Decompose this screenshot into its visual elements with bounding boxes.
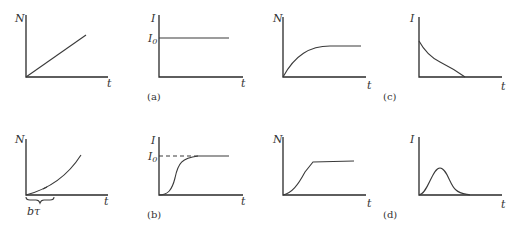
x-label: t xyxy=(367,79,372,92)
y-label: N xyxy=(14,133,25,146)
y-label: N xyxy=(14,12,25,25)
y-label: I xyxy=(150,12,156,25)
panel-c-I: I t (c) xyxy=(383,12,506,102)
x-label: t xyxy=(501,198,506,211)
panel-d-N: N t xyxy=(272,133,372,210)
y-label: I xyxy=(409,12,415,25)
caption-c: (c) xyxy=(383,91,397,102)
y-label: I xyxy=(150,134,156,147)
x-label: t xyxy=(104,195,109,208)
panel-a-I: I I0 t (a) xyxy=(147,12,246,102)
kinetics-figure: N t I I0 t (a) N t I t (c) bτ t N xyxy=(0,0,513,237)
svg-text:I0: I0 xyxy=(147,32,157,46)
panel-c-N: N t xyxy=(272,12,372,92)
y-label: I xyxy=(409,133,415,146)
btau-annotation: bτ xyxy=(27,205,41,218)
caption-a: (a) xyxy=(147,91,161,102)
x-label: t xyxy=(501,80,506,93)
x-label: t xyxy=(241,195,246,208)
panel-b-I: I I0 t (b) xyxy=(147,134,246,220)
x-label: t xyxy=(107,77,112,90)
panel-d-I: I t (d) xyxy=(383,133,506,220)
caption-d: (d) xyxy=(383,209,397,220)
x-label: t xyxy=(241,77,246,90)
panel-a-N: N t xyxy=(14,12,112,90)
y-label: N xyxy=(272,133,283,146)
caption-b: (b) xyxy=(147,209,161,220)
panel-b-N: bτ t N xyxy=(14,133,109,218)
svg-text:I0: I0 xyxy=(147,150,157,164)
y-label: N xyxy=(272,12,283,25)
x-label: t xyxy=(367,197,372,210)
